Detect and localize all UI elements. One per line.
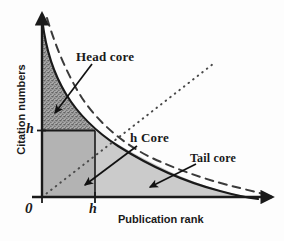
region-head-core [42, 25, 95, 131]
origin-label: 0 [25, 201, 33, 216]
annotation-head-core: Head core [76, 50, 134, 63]
h-index-diagram: Head core h Core Tail core Citation numb… [0, 0, 284, 241]
y-axis-label: Citation numbers [16, 62, 27, 158]
x-axis-label: Publication rank [118, 214, 204, 225]
y-axis-tick-label-h: h [26, 122, 34, 136]
diagram-canvas [0, 0, 284, 241]
region-h-core [42, 131, 95, 198]
annotation-tail-core: Tail core [190, 152, 236, 164]
x-axis-tick-label-h: h [89, 202, 97, 216]
annotation-h-core: h Core [130, 131, 169, 144]
